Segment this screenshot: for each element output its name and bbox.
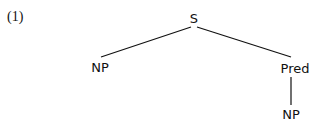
node-np-predicate: NP <box>282 108 300 121</box>
node-np-subject: NP <box>91 61 109 74</box>
edge-s-np <box>101 27 191 57</box>
node-s: S <box>190 12 198 25</box>
edge-s-pred <box>197 27 291 57</box>
tree-edges <box>0 0 323 132</box>
node-pred: Pred <box>281 62 310 75</box>
